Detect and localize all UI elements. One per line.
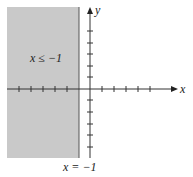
y-axis-arrow-icon <box>87 7 93 14</box>
x-axis-label: x <box>179 82 186 96</box>
shaded-region <box>7 7 79 158</box>
inequality-graph: x ≤ −1 x = −1 x y <box>0 0 193 177</box>
region-label: x ≤ −1 <box>29 51 62 65</box>
boundary-label: x = −1 <box>62 160 97 174</box>
y-axis-label: y <box>94 3 101 17</box>
x-axis-arrow-icon <box>171 86 178 92</box>
